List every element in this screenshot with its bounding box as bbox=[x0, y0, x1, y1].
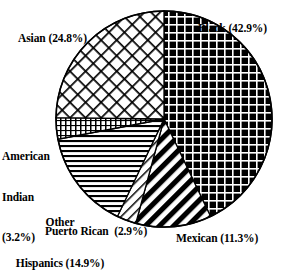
slice-label-asian: Asian (24.8%) bbox=[18, 32, 87, 46]
slice-label-other-hispanics-line2: Hispanics (14.9%) bbox=[8, 257, 112, 271]
slice-label-american-indian-line1: American bbox=[2, 150, 50, 164]
slice-label-black: Black (42.9%) bbox=[198, 22, 267, 36]
pie-slice-asian[interactable] bbox=[56, 11, 164, 119]
slice-label-puerto-rican: Puerto Rican (2.9%) bbox=[45, 225, 147, 239]
slice-label-mexican: Mexican (11.3%) bbox=[176, 232, 258, 246]
